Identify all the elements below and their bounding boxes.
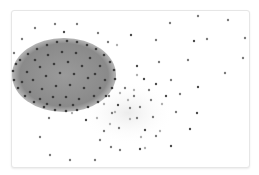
graph-node[interactable]	[69, 84, 72, 87]
graph-node[interactable]	[242, 57, 244, 59]
graph-node[interactable]	[136, 74, 138, 76]
graph-node[interactable]	[69, 159, 71, 161]
graph-node[interactable]	[206, 38, 208, 40]
graph-node[interactable]	[19, 59, 22, 62]
graph-node[interactable]	[89, 57, 92, 60]
graph-node[interactable]	[34, 27, 36, 29]
graph-node[interactable]	[155, 83, 157, 85]
graph-node[interactable]	[119, 92, 121, 94]
graph-node[interactable]	[71, 112, 73, 114]
graph-node[interactable]	[170, 79, 172, 81]
graph-node[interactable]	[39, 98, 42, 101]
graph-node[interactable]	[54, 109, 57, 112]
graph-node[interactable]	[175, 111, 177, 113]
graph-node[interactable]	[59, 104, 62, 107]
graph-node[interactable]	[129, 107, 131, 109]
graph-node[interactable]	[32, 79, 35, 82]
graph-node[interactable]	[81, 65, 84, 68]
graph-node[interactable]	[103, 103, 105, 105]
graph-node[interactable]	[148, 89, 150, 91]
graph-node[interactable]	[114, 78, 117, 81]
graph-node[interactable]	[129, 118, 131, 120]
graph-node[interactable]	[224, 72, 226, 74]
graph-node[interactable]	[150, 99, 152, 101]
graph-node[interactable]	[136, 65, 138, 67]
graph-node[interactable]	[187, 59, 189, 61]
graph-node[interactable]	[27, 53, 30, 56]
graph-node[interactable]	[66, 40, 69, 43]
graph-node[interactable]	[46, 44, 49, 47]
graph-node[interactable]	[113, 69, 116, 72]
graph-node[interactable]	[114, 111, 116, 113]
graph-node[interactable]	[85, 119, 87, 121]
graph-node[interactable]	[109, 123, 111, 125]
graph-node[interactable]	[15, 63, 18, 66]
graph-node[interactable]	[104, 79, 107, 82]
graph-node[interactable]	[136, 117, 138, 119]
graph-node[interactable]	[227, 19, 229, 21]
graph-node[interactable]	[52, 96, 55, 99]
graph-node[interactable]	[54, 23, 56, 25]
graph-node[interactable]	[76, 41, 79, 44]
graph-node[interactable]	[86, 44, 89, 47]
graph-node[interactable]	[43, 106, 46, 109]
graph-node[interactable]	[39, 66, 42, 69]
graph-node[interactable]	[119, 149, 121, 151]
graph-node[interactable]	[155, 135, 157, 137]
graph-node[interactable]	[170, 145, 172, 147]
graph-node[interactable]	[109, 61, 112, 64]
graph-node[interactable]	[144, 129, 146, 131]
graph-node[interactable]	[155, 39, 157, 41]
graph-node[interactable]	[139, 148, 141, 150]
graph-node[interactable]	[13, 52, 15, 54]
graph-node[interactable]	[55, 85, 58, 88]
graph-node[interactable]	[83, 87, 86, 90]
graph-node[interactable]	[72, 104, 75, 107]
graph-node[interactable]	[152, 116, 154, 118]
graph-node[interactable]	[76, 109, 79, 112]
graph-node[interactable]	[140, 136, 142, 138]
graph-node[interactable]	[189, 128, 191, 130]
graph-node[interactable]	[97, 101, 100, 104]
graph-node[interactable]	[65, 110, 68, 113]
network-graph[interactable]	[0, 0, 259, 175]
graph-node[interactable]	[21, 81, 24, 84]
graph-node[interactable]	[111, 112, 113, 114]
graph-node[interactable]	[144, 147, 146, 149]
graph-node[interactable]	[116, 44, 118, 46]
graph-node[interactable]	[117, 104, 119, 106]
graph-node[interactable]	[108, 95, 110, 97]
graph-node[interactable]	[124, 87, 126, 89]
graph-node[interactable]	[169, 22, 171, 24]
graph-node[interactable]	[127, 99, 129, 101]
graph-node[interactable]	[29, 91, 32, 94]
graph-node[interactable]	[143, 78, 145, 80]
graph-node[interactable]	[45, 75, 48, 78]
graph-node[interactable]	[197, 15, 199, 17]
graph-node[interactable]	[48, 117, 50, 119]
graph-node[interactable]	[133, 89, 135, 91]
graph-node[interactable]	[179, 93, 181, 95]
graph-node[interactable]	[94, 159, 96, 161]
graph-node[interactable]	[99, 87, 102, 90]
graph-node[interactable]	[17, 87, 20, 90]
graph-node[interactable]	[99, 65, 102, 68]
graph-node[interactable]	[196, 112, 198, 114]
graph-node[interactable]	[41, 88, 44, 91]
graph-node[interactable]	[139, 106, 141, 108]
graph-node[interactable]	[93, 95, 96, 98]
graph-node[interactable]	[33, 101, 36, 104]
graph-node[interactable]	[97, 32, 99, 34]
graph-node[interactable]	[26, 71, 29, 74]
graph-node[interactable]	[165, 95, 167, 97]
graph-node[interactable]	[61, 51, 64, 54]
graph-node[interactable]	[159, 130, 161, 132]
graph-node[interactable]	[13, 79, 16, 82]
graph-node[interactable]	[65, 96, 68, 99]
graph-node[interactable]	[193, 40, 195, 42]
graph-node[interactable]	[36, 48, 39, 51]
graph-node[interactable]	[39, 136, 41, 138]
graph-node[interactable]	[103, 54, 106, 57]
graph-node[interactable]	[76, 23, 78, 25]
graph-node[interactable]	[63, 31, 65, 33]
